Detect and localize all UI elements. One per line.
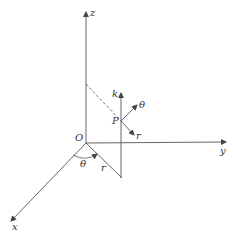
y-axis bbox=[86, 142, 226, 143]
radius-label: r bbox=[101, 163, 106, 173]
z-axis-label: z bbox=[90, 8, 95, 18]
origin-label: O bbox=[75, 133, 83, 143]
point-label: P bbox=[112, 116, 119, 126]
r-vector-label: r bbox=[136, 131, 141, 141]
theta-vector bbox=[121, 105, 137, 121]
theta-vector-label: θ bbox=[139, 100, 145, 110]
angle-label: θ bbox=[80, 159, 86, 169]
r-vector bbox=[121, 121, 134, 135]
y-axis-label: y bbox=[220, 146, 226, 156]
x-axis-label: x bbox=[12, 222, 18, 232]
x-axis bbox=[11, 143, 86, 221]
k-vector-label: k bbox=[112, 89, 118, 99]
